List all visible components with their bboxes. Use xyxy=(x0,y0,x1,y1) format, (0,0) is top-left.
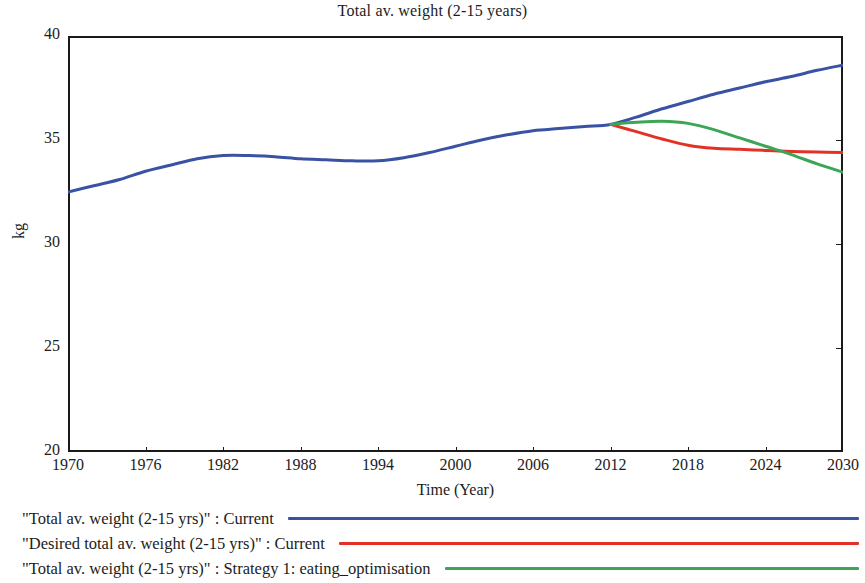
x-tick-mark xyxy=(456,447,457,452)
x-tick-mark xyxy=(301,447,302,452)
legend-color-swatch xyxy=(445,567,859,570)
x-tick-mark xyxy=(146,447,147,452)
y-tick-label: 35 xyxy=(14,129,60,147)
y-tick-mark xyxy=(836,244,842,245)
y-tick-mark xyxy=(836,140,842,141)
x-tick-mark xyxy=(766,447,767,452)
x-tick-mark xyxy=(378,447,379,452)
legend-color-swatch xyxy=(339,542,859,545)
series-line-3 xyxy=(611,121,844,172)
series-line-1 xyxy=(68,65,843,192)
x-tick-mark xyxy=(223,447,224,452)
x-tick-label: 2006 xyxy=(503,456,563,474)
x-tick-label: 2012 xyxy=(581,456,641,474)
x-tick-label: 1970 xyxy=(38,456,98,474)
x-tick-label: 2030 xyxy=(813,456,865,474)
legend-item-label: "Total av. weight (2-15 yrs)" : Current xyxy=(0,509,274,529)
plot-lines xyxy=(68,36,843,452)
legend-item[interactable]: "Total av. weight (2-15 yrs)" : Strategy… xyxy=(0,556,865,581)
x-tick-label: 1982 xyxy=(193,456,253,474)
y-tick-mark xyxy=(836,348,842,349)
legend-item-label: "Total av. weight (2-15 yrs)" : Strategy… xyxy=(0,559,431,579)
legend-item[interactable]: "Desired total av. weight (2-15 yrs)" : … xyxy=(0,531,865,556)
series-line-2 xyxy=(611,124,844,152)
x-tick-mark xyxy=(688,447,689,452)
y-axis-title: kg xyxy=(10,201,28,261)
x-tick-mark xyxy=(611,447,612,452)
x-axis-title: Time (Year) xyxy=(68,481,843,499)
x-tick-label: 1994 xyxy=(348,456,408,474)
legend-item-label: "Desired total av. weight (2-15 yrs)" : … xyxy=(0,534,325,554)
legend-color-swatch xyxy=(288,517,859,520)
x-tick-label: 2000 xyxy=(426,456,486,474)
chart-title: Total av. weight (2-15 years) xyxy=(0,2,865,20)
x-tick-label: 1976 xyxy=(116,456,176,474)
legend-item[interactable]: "Total av. weight (2-15 yrs)" : Current xyxy=(0,506,865,531)
chart-page: Total av. weight (2-15 years) 2025303540… xyxy=(0,0,865,583)
x-tick-mark xyxy=(533,447,534,452)
x-tick-label: 2018 xyxy=(658,456,718,474)
y-tick-label: 25 xyxy=(14,337,60,355)
x-tick-label: 1988 xyxy=(271,456,331,474)
chart-legend: "Total av. weight (2-15 yrs)" : Current"… xyxy=(0,506,865,583)
y-tick-label: 40 xyxy=(14,25,60,43)
x-tick-label: 2024 xyxy=(736,456,796,474)
